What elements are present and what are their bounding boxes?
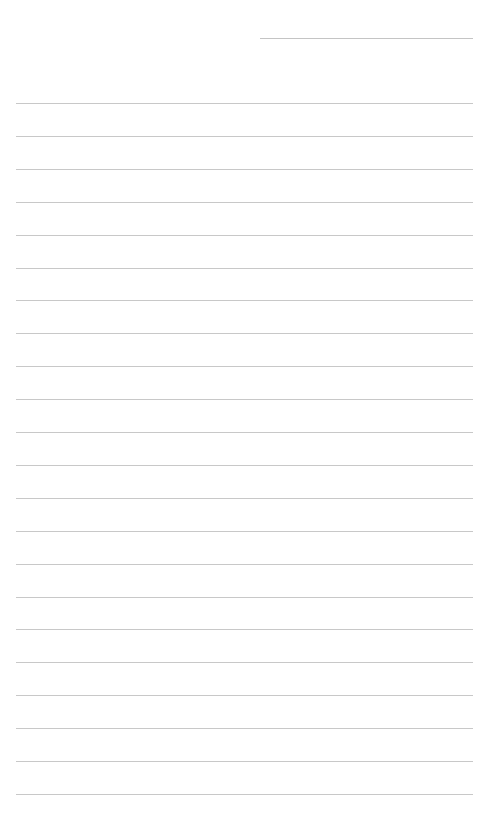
ruled-line (16, 728, 473, 729)
ruled-line (16, 300, 473, 301)
ruled-line (16, 136, 473, 137)
ruled-line (16, 202, 473, 203)
ruled-line (16, 695, 473, 696)
ruled-line (16, 465, 473, 466)
ruled-line (16, 169, 473, 170)
ruled-line (16, 399, 473, 400)
ruled-line (16, 103, 473, 104)
ruled-line (16, 268, 473, 269)
ruled-line (16, 498, 473, 499)
ruled-line (16, 794, 473, 795)
ruled-line (16, 761, 473, 762)
ruled-line (16, 564, 473, 565)
ruled-line (16, 629, 473, 630)
ruled-line (16, 531, 473, 532)
ruled-line (16, 597, 473, 598)
ruled-line (16, 662, 473, 663)
ruled-line (16, 366, 473, 367)
ruled-line (16, 432, 473, 433)
ruled-line (16, 235, 473, 236)
ruled-line (16, 333, 473, 334)
date-header-line (260, 38, 473, 39)
